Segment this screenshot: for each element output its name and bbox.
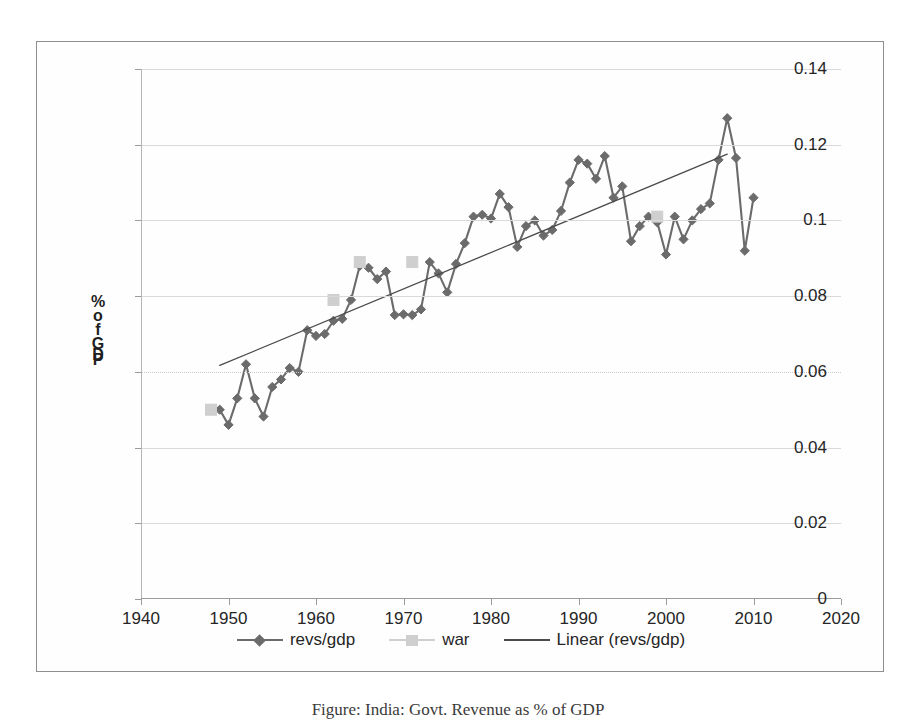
x-tick-label: 2010	[735, 609, 773, 629]
gridline	[141, 69, 841, 70]
data-point-marker	[259, 412, 268, 421]
legend-swatch	[237, 633, 283, 647]
figure-root: % o f G D P 00.020.040.060.080.10.120.14…	[0, 0, 916, 721]
data-point-marker	[591, 174, 600, 183]
data-point-marker	[486, 214, 495, 223]
data-point-marker	[390, 310, 399, 319]
data-point-marker	[250, 394, 259, 403]
gridline	[141, 296, 841, 297]
y-axis-title-char: P	[87, 353, 109, 367]
y-tick-label: 0	[818, 589, 827, 609]
y-tick-label: 0.14	[794, 59, 827, 79]
data-point-marker	[740, 246, 749, 255]
x-tick-label: 1970	[385, 609, 423, 629]
x-tick-mark	[229, 599, 230, 605]
legend-label: Linear (revs/gdp)	[557, 630, 686, 650]
gridline	[141, 372, 841, 373]
data-point-marker	[233, 394, 242, 403]
war-marker	[354, 257, 365, 268]
x-tick-mark	[141, 599, 142, 605]
legend-entry[interactable]: Linear (revs/gdp)	[504, 630, 686, 650]
data-point-marker	[583, 159, 592, 168]
x-tick-label: 1980	[472, 609, 510, 629]
series-revs-gdp	[215, 114, 758, 430]
legend-label: revs/gdp	[290, 630, 355, 650]
legend-label: war	[442, 630, 469, 650]
x-tick-label: 2000	[647, 609, 685, 629]
data-point-marker	[679, 235, 688, 244]
y-tick-label: 0.06	[794, 362, 827, 382]
y-tick-mark	[135, 448, 141, 449]
data-point-marker	[661, 250, 670, 259]
data-point-marker	[626, 237, 635, 246]
data-point-marker	[749, 193, 758, 202]
x-tick-label: 1960	[297, 609, 335, 629]
y-tick-mark	[135, 296, 141, 297]
chart-legend: revs/gdpwarLinear (revs/gdp)	[37, 630, 885, 650]
x-tick-label: 1950	[210, 609, 248, 629]
y-tick-mark	[135, 69, 141, 70]
data-point-marker	[241, 360, 250, 369]
y-tick-label: 0.1	[803, 210, 827, 230]
chart-frame: % o f G D P 00.020.040.060.080.10.120.14…	[36, 41, 884, 672]
y-tick-label: 0.04	[794, 438, 827, 458]
data-point-marker	[565, 178, 574, 187]
plot-area: 00.020.040.060.080.10.120.14 19401950196…	[141, 69, 841, 599]
data-point-marker	[600, 151, 609, 160]
war-marker	[206, 404, 217, 415]
y-tick-label: 0.02	[794, 513, 827, 533]
x-tick-mark	[841, 599, 842, 605]
data-point-marker	[731, 153, 740, 162]
x-tick-label: 1940	[122, 609, 160, 629]
x-tick-mark	[754, 599, 755, 605]
gridline	[141, 145, 841, 146]
legend-swatch	[504, 633, 550, 647]
data-point-marker	[478, 210, 487, 219]
data-point-marker	[460, 239, 469, 248]
legend-entry[interactable]: revs/gdp	[237, 630, 355, 650]
series-line	[220, 154, 728, 365]
legend-swatch	[389, 633, 435, 647]
data-point-marker	[399, 310, 408, 319]
y-tick-mark	[135, 145, 141, 146]
x-tick-mark	[316, 599, 317, 605]
y-tick-label: 0.08	[794, 286, 827, 306]
x-tick-label: 1990	[560, 609, 598, 629]
figure-caption: Figure: India: Govt. Revenue as % of GDP	[0, 700, 916, 720]
gridline	[141, 220, 841, 221]
war-marker	[407, 257, 418, 268]
series-linear-revs-gdp-	[220, 154, 728, 365]
data-point-marker	[556, 206, 565, 215]
y-tick-mark	[135, 523, 141, 524]
data-point-marker	[574, 155, 583, 164]
legend-entry[interactable]: war	[389, 630, 469, 650]
series-line	[220, 118, 754, 425]
data-point-marker	[723, 114, 732, 123]
x-tick-mark	[404, 599, 405, 605]
data-point-marker	[513, 242, 522, 251]
x-tick-mark	[491, 599, 492, 605]
legend-line-icon	[504, 639, 550, 641]
y-tick-mark	[135, 220, 141, 221]
data-series-layer	[141, 69, 841, 599]
y-axis-line	[141, 69, 142, 599]
gridline	[141, 523, 841, 524]
y-tick-mark	[135, 372, 141, 373]
x-tick-label: 2020	[822, 609, 860, 629]
x-tick-mark	[579, 599, 580, 605]
legend-diamond-icon	[253, 634, 266, 647]
y-tick-label: 0.12	[794, 135, 827, 155]
x-tick-mark	[666, 599, 667, 605]
gridline	[141, 448, 841, 449]
data-point-marker	[224, 420, 233, 429]
y-axis-title: % o f G D P	[87, 295, 109, 367]
legend-square-icon	[406, 635, 418, 646]
